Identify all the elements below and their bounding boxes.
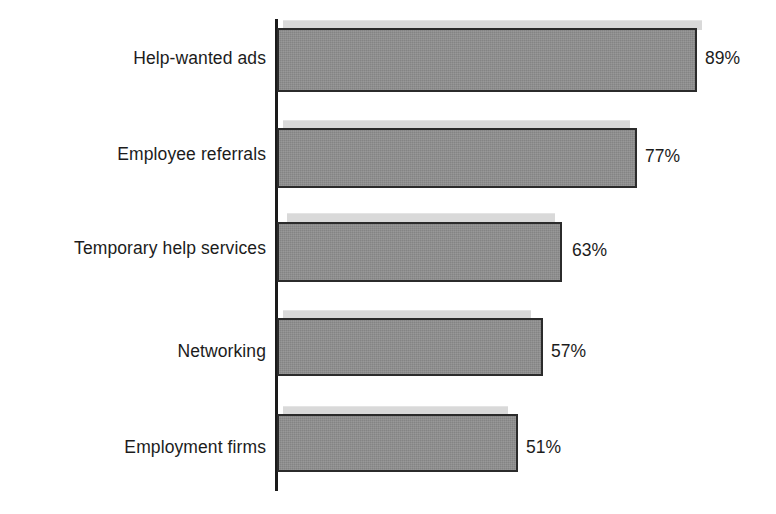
bar[interactable] (277, 414, 518, 472)
bar-category-label: Employment firms (0, 437, 266, 458)
bar-row: Help-wanted ads 89% (0, 0, 776, 114)
bar[interactable] (277, 128, 637, 188)
bar[interactable] (277, 318, 543, 376)
bar-category-label: Networking (0, 341, 266, 362)
bar-chart: Help-wanted ads 89% Employee referrals 7… (0, 0, 776, 514)
bar-category-label: Help-wanted ads (0, 48, 266, 69)
bar-category-label: Employee referrals (0, 144, 266, 165)
bar[interactable] (277, 222, 562, 282)
bar-value-label: 77% (645, 146, 680, 167)
bar-value-label: 89% (705, 48, 740, 69)
bar-value-label: 57% (551, 341, 586, 362)
bar-value-label: 63% (572, 240, 607, 261)
bar[interactable] (277, 28, 697, 92)
bar-value-label: 51% (526, 437, 561, 458)
bar-category-label: Temporary help services (0, 238, 266, 259)
